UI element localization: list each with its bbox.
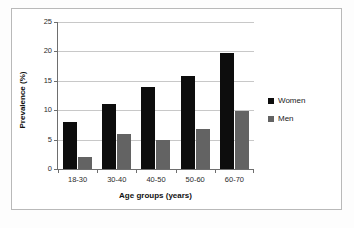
- bar-women-50-60: [181, 76, 195, 169]
- x-tick-label: 50-60: [176, 176, 215, 184]
- bar-men-50-60: [196, 129, 210, 169]
- bar-women-60-70: [220, 53, 234, 169]
- x-tick-label: 18-30: [58, 176, 97, 184]
- x-tick-mark: [58, 169, 59, 173]
- y-tick-label: 20: [44, 48, 52, 56]
- bar-men-18-30: [78, 157, 92, 169]
- chart-figure: 0510152025 18-3030-4040-5050-6060-70 Age…: [0, 0, 354, 228]
- bar-women-18-30: [63, 122, 77, 169]
- bar-group: 50-60: [176, 22, 215, 169]
- legend-swatch-women: [268, 98, 274, 104]
- bar-women-40-50: [141, 87, 155, 169]
- legend-swatch-men: [268, 116, 274, 122]
- bar-men-40-50: [156, 140, 170, 169]
- y-tick-label: 15: [44, 77, 52, 85]
- x-axis-title: Age groups (years): [57, 192, 254, 200]
- y-tick-label: 5: [48, 136, 52, 144]
- x-tick-label: 40-50: [136, 176, 175, 184]
- legend-label-women: Women: [278, 97, 305, 105]
- y-tick-label: 10: [44, 106, 52, 114]
- x-tick-label: 30-40: [97, 176, 136, 184]
- bar-group: 30-40: [97, 22, 136, 169]
- chart-legend: Women Men: [268, 97, 338, 133]
- y-tick-label: 25: [44, 18, 52, 26]
- bar-group: 40-50: [136, 22, 175, 169]
- bar-group: 60-70: [215, 22, 254, 169]
- bar-women-30-40: [102, 104, 116, 169]
- plot-area: 0510152025 18-3030-4040-5050-6060-70: [57, 22, 254, 170]
- x-tick-mark: [97, 169, 98, 173]
- legend-item-women: Women: [268, 97, 338, 105]
- x-tick-mark: [136, 169, 137, 173]
- legend-label-men: Men: [278, 115, 294, 123]
- x-tick-label: 60-70: [215, 176, 254, 184]
- x-tick-mark: [253, 169, 254, 173]
- bar-men-60-70: [235, 111, 249, 169]
- x-tick-mark: [176, 169, 177, 173]
- y-axis-title: Prevalence (%): [19, 45, 27, 155]
- bar-men-30-40: [117, 134, 131, 169]
- y-tick-label: 0: [48, 165, 52, 173]
- x-tick-mark: [215, 169, 216, 173]
- legend-item-men: Men: [268, 115, 338, 123]
- bar-group: 18-30: [58, 22, 97, 169]
